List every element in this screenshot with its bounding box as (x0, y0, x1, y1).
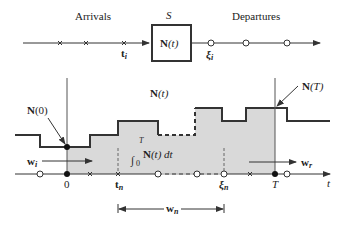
departure-mark-icon (155, 171, 161, 177)
departures-label: Departures (232, 10, 280, 22)
departure-mark-icon (221, 171, 227, 177)
curve-label: N(t) (150, 87, 169, 100)
n0-label: N(0) (27, 104, 48, 117)
departure-mark-icon (284, 171, 290, 177)
wr-label: wr (301, 156, 313, 170)
queue-diagram: Arrivals S Departures ti N(t) ξi (0, 0, 343, 227)
step-curve-dashed (158, 108, 195, 135)
T-point-icon (272, 171, 278, 177)
departure-mark-icon (37, 171, 43, 177)
system-schematic: Arrivals S Departures ti N(t) ξi (23, 9, 320, 62)
integral-area (67, 108, 275, 174)
tick-tn-label: tn (115, 178, 124, 192)
departure-mark-icon (243, 40, 249, 46)
n0-pointer-arrow (48, 118, 65, 144)
integral-upper-limit: T (139, 136, 144, 145)
wi-label: wi (27, 155, 38, 169)
tick-xin-label: ξn (219, 178, 229, 192)
time-axis-label: t (327, 177, 331, 189)
departure-time-label: ξi (206, 48, 214, 62)
arrival-time-label: ti (121, 47, 128, 61)
origin-point-icon (64, 171, 70, 177)
tick-zero-label: 0 (64, 178, 70, 190)
tick-T-label: T (272, 178, 279, 190)
nT-label: N(T) (302, 80, 324, 93)
departure-mark-icon (208, 40, 214, 46)
wn-label: wn (166, 202, 179, 216)
departure-mark-icon (194, 171, 200, 177)
departure-mark-icon (284, 40, 290, 46)
nT-pointer-arrow (277, 86, 298, 106)
occupancy-plot: N(t) N(0) N(T) ∫ T 0 N(t) dt wi wr t (15, 78, 331, 216)
system-box-label: N(t) (160, 37, 179, 50)
arrivals-label: Arrivals (75, 10, 111, 22)
integral-lower-limit: 0 (136, 159, 140, 168)
n0-point-icon (64, 144, 70, 150)
wn-interval: wn (118, 202, 224, 216)
system-label: S (166, 9, 172, 21)
integrand: N(t) dt (143, 148, 174, 161)
